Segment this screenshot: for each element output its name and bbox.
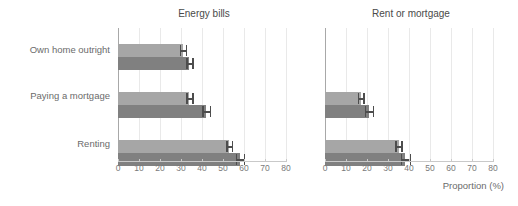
y-axis-category-labels: Own home outright Paying a mortgage Rent… [0,28,116,162]
error-bar-cap-high [232,141,234,152]
panel-rent-or-mortgage: Rent or mortgage 01020304050607080 [325,0,497,206]
x-tickmark-10 [139,159,140,162]
x-tick-label-20: 20 [362,163,371,173]
x-tickmark-20 [160,159,161,162]
error-bar-cap-low [358,93,360,104]
x-tickmark-20 [367,159,368,162]
y-category-label-paying-a-mortgage: Paying a mortgage [0,90,110,101]
error-bar-series-light-renting [395,140,402,153]
x-tickmark-80 [493,159,494,162]
gridline-70 [472,28,473,162]
x-tickmark-70 [265,159,266,162]
error-bar-cap-low [395,141,397,152]
x-tick-label-0: 0 [323,163,328,173]
x-tick-label-10: 10 [134,163,143,173]
bar-series-light-own-home-outright [118,44,183,57]
panel-title-rent-or-mortgage: Rent or mortgage [325,8,497,19]
x-tick-label-0: 0 [116,163,121,173]
x-tick-label-80: 80 [488,163,497,173]
x-tick-label-10: 10 [341,163,350,173]
panel-title-energy-bills: Energy bills [118,8,290,19]
bar-series-light-paying-a-mortgage [325,92,361,105]
x-tick-label-30: 30 [383,163,392,173]
x-tickmark-0 [118,159,119,162]
error-bar-cap-high [373,106,375,117]
bar-series-dark-own-home-outright [118,57,189,70]
gridline-80 [493,28,494,162]
x-tick-label-20: 20 [155,163,164,173]
x-tick-label-60: 60 [446,163,455,173]
x-tick-label-50: 50 [218,163,227,173]
x-tick-label-70: 70 [260,163,269,173]
error-bar-cap-high [210,106,212,117]
x-tickmark-0 [325,159,326,162]
error-bar-cap-high [192,93,194,104]
x-axis-title: Proportion (%) [443,180,504,191]
error-bar-cap-low [186,93,188,104]
error-bar-series-light-paying-a-mortgage [186,92,193,105]
x-tickmark-40 [409,159,410,162]
x-tick-label-30: 30 [176,163,185,173]
x-tick-label-80: 80 [281,163,290,173]
x-axis-ticks-rent-or-mortgage: 01020304050607080 [325,163,493,177]
x-tick-label-60: 60 [239,163,248,173]
x-tickmark-60 [451,159,452,162]
x-tickmark-10 [346,159,347,162]
plot-area-rent-or-mortgage [325,28,493,162]
x-tickmark-50 [223,159,224,162]
chart-figure: Own home outright Paying a mortgage Rent… [0,0,518,206]
y-category-label-renting: Renting [0,138,110,149]
bar-series-light-paying-a-mortgage [118,92,189,105]
x-tickmark-50 [430,159,431,162]
gridline-60 [244,28,245,162]
x-tick-label-50: 50 [425,163,434,173]
bar-series-light-renting [325,140,399,153]
x-axis-ticks-energy-bills: 01020304050607080 [118,163,286,177]
error-bar-series-dark-paying-a-mortgage [202,105,211,118]
gridline-50 [430,28,431,162]
error-bar-series-dark-paying-a-mortgage [365,105,374,118]
error-bar-cap-high [186,45,188,56]
x-tickmark-30 [388,159,389,162]
gridline-40 [409,28,410,162]
plot-area-energy-bills [118,28,286,162]
error-bar-cap-low [180,45,182,56]
error-bar-series-dark-own-home-outright [186,57,193,70]
panel-energy-bills: Energy bills 01020304050607080 [118,0,290,206]
error-bar-series-light-own-home-outright [180,44,187,57]
error-bar-cap-high [401,141,403,152]
error-bar-cap-high [192,58,194,69]
error-bar-cap-high [363,93,365,104]
gridline-70 [265,28,266,162]
bar-series-dark-paying-a-mortgage [118,105,206,118]
gridline-60 [451,28,452,162]
x-tickmark-60 [244,159,245,162]
error-bar-series-light-renting [226,140,233,153]
error-bar-series-light-paying-a-mortgage [358,92,365,105]
x-tick-label-40: 40 [197,163,206,173]
gridline-80 [286,28,287,162]
error-bar-cap-low [226,141,228,152]
y-category-label-own-home-outright: Own home outright [0,44,110,55]
bar-series-light-renting [118,140,229,153]
x-tick-label-40: 40 [404,163,413,173]
x-tickmark-40 [202,159,203,162]
error-bar-cap-low [365,106,367,117]
x-tick-label-70: 70 [467,163,476,173]
error-bar-cap-low [186,58,188,69]
x-tickmark-80 [286,159,287,162]
error-bar-cap-low [202,106,204,117]
x-tickmark-70 [472,159,473,162]
bar-series-dark-paying-a-mortgage [325,105,369,118]
x-tickmark-30 [181,159,182,162]
